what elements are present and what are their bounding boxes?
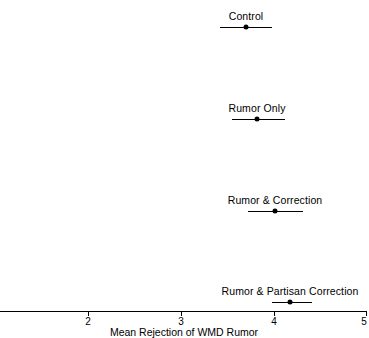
estimate-label: Control	[229, 10, 264, 22]
point-marker	[255, 117, 260, 122]
point-marker	[244, 25, 249, 30]
x-axis-tick-label: 5	[361, 316, 367, 327]
point-marker	[288, 300, 293, 305]
estimate-label: Rumor Only	[228, 102, 285, 114]
estimate-label: Rumor & Correction	[228, 194, 323, 206]
x-axis-tick-label: 2	[85, 316, 91, 327]
chart-figure: Control Rumor Only Rumor & Correction Ru…	[0, 0, 369, 338]
x-axis-line	[0, 311, 366, 312]
estimate-label: Rumor & Partisan Correction	[222, 285, 359, 297]
point-marker	[273, 209, 278, 214]
plot-area: Control Rumor Only Rumor & Correction Ru…	[0, 0, 369, 338]
x-axis-title: Mean Rejection of WMD Rumor	[110, 326, 258, 338]
x-axis-tick-label: 4	[271, 316, 277, 327]
